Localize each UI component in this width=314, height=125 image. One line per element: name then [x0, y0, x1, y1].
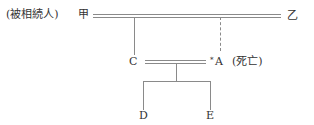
deceased-note-label: (死亡) [232, 56, 263, 68]
descent-line-to-a-dashed [220, 17, 221, 51]
spouse-name-label: 乙 [287, 10, 298, 22]
decedent-name-label: 甲 [78, 9, 89, 21]
descent-line-to-e [210, 81, 211, 110]
grandchild-d-label: D [139, 110, 148, 122]
descent-line-c-a-children [176, 63, 177, 81]
child-a-label: A [215, 56, 223, 68]
child-c-label: C [129, 56, 137, 68]
marriage-line-kou-otsu [93, 14, 281, 18]
descent-line-to-d [143, 81, 144, 110]
descent-line-to-c [134, 17, 135, 55]
grandchild-e-label: E [206, 110, 214, 122]
decedent-prefix-label: (被相続人) [6, 9, 59, 21]
asterisk-marker: * [210, 54, 214, 66]
sibling-connector-line [143, 81, 210, 82]
